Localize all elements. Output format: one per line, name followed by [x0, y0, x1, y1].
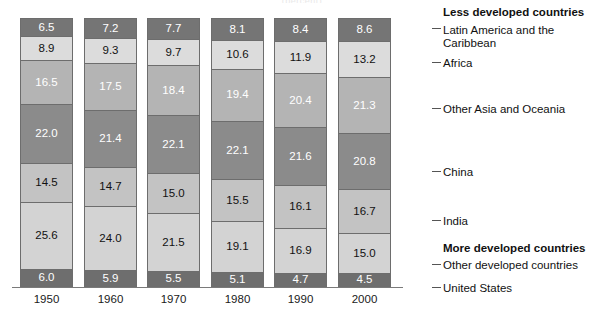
segment-value: 8.1	[230, 24, 246, 36]
segment-value: 19.4	[226, 89, 248, 101]
segment-value: 5.9	[103, 273, 119, 285]
segment-latin-america-and-the-caribbean[interactable]: 7.2	[84, 18, 137, 38]
bar-1970[interactable]: 7.79.718.422.115.021.55.5	[147, 18, 200, 287]
bar-1980[interactable]: 8.110.619.422.115.519.15.1	[211, 18, 264, 287]
connector-india	[432, 220, 441, 221]
legend-label-latin-america-line2: Caribbean	[443, 37, 496, 49]
segment-china[interactable]: 21.4	[84, 110, 137, 167]
segment-value: 19.1	[226, 241, 248, 253]
segment-other-developed-countries[interactable]: 24.0	[84, 206, 137, 270]
segment-value: 9.3	[103, 45, 119, 57]
connector-other-asia	[432, 108, 441, 109]
segment-value: 8.9	[39, 43, 55, 55]
segment-other-asia-and-oceania[interactable]: 19.4	[211, 69, 264, 121]
x-axis-line	[12, 287, 403, 288]
segment-africa[interactable]: 9.3	[84, 38, 137, 63]
segment-value: 18.4	[162, 85, 184, 97]
bar-2000[interactable]: 8.613.221.320.816.715.04.5	[338, 18, 391, 287]
segment-value: 10.6	[226, 49, 248, 61]
legend-label-africa: Africa	[443, 57, 472, 69]
segment-value: 15.0	[353, 248, 375, 260]
segment-latin-america-and-the-caribbean[interactable]: 6.5	[20, 18, 73, 36]
segment-other-asia-and-oceania[interactable]: 20.4	[274, 73, 327, 127]
segment-india[interactable]: 16.1	[274, 185, 327, 228]
segment-value: 21.6	[289, 151, 311, 163]
x-axis-label-1960: 1960	[84, 293, 137, 305]
segment-value: 15.0	[162, 188, 184, 200]
legend-label-india: India	[443, 215, 468, 227]
segment-india[interactable]: 15.5	[211, 179, 264, 221]
segment-other-developed-countries[interactable]: 25.6	[20, 202, 73, 270]
segment-africa[interactable]: 8.9	[20, 36, 73, 60]
segment-value: 20.4	[289, 95, 311, 107]
segment-india[interactable]: 14.7	[84, 167, 137, 206]
segment-united-states[interactable]: 4.5	[338, 273, 391, 287]
x-axis-label-1990: 1990	[274, 293, 327, 305]
bar-1960[interactable]: 7.29.317.521.414.724.05.9	[84, 18, 137, 287]
segment-other-asia-and-oceania[interactable]: 17.5	[84, 63, 137, 110]
segment-other-asia-and-oceania[interactable]: 18.4	[147, 65, 200, 114]
segment-china[interactable]: 22.0	[20, 104, 73, 162]
legend-label-other-asia-and-oceania: Other Asia and Oceania	[443, 103, 565, 115]
x-axis-label-1950: 1950	[20, 293, 73, 305]
legend-label-china: China	[443, 166, 473, 178]
segment-value: 7.7	[166, 23, 182, 35]
segment-value: 21.4	[99, 133, 121, 145]
segment-value: 21.3	[353, 100, 375, 112]
x-axis-label-1970: 1970	[147, 293, 200, 305]
segment-value: 15.5	[226, 195, 248, 207]
connector-china	[432, 171, 441, 172]
segment-value: 5.5	[166, 273, 182, 285]
segment-africa[interactable]: 10.6	[211, 40, 264, 69]
segment-latin-america-and-the-caribbean[interactable]: 8.1	[211, 18, 264, 40]
segment-china[interactable]: 22.1	[211, 121, 264, 180]
segment-other-developed-countries[interactable]: 16.9	[274, 228, 327, 273]
connector-africa	[432, 62, 441, 63]
segment-other-asia-and-oceania[interactable]: 16.5	[20, 60, 73, 104]
segment-china[interactable]: 20.8	[338, 133, 391, 188]
segment-other-developed-countries[interactable]: 15.0	[338, 233, 391, 273]
legend-group-header-less-developed: Less developed countries	[443, 6, 584, 18]
connector-other-developed	[432, 264, 441, 265]
connector-latin-america	[432, 28, 441, 29]
segment-value: 16.5	[35, 77, 57, 89]
segment-latin-america-and-the-caribbean[interactable]: 8.4	[274, 18, 327, 41]
segment-india[interactable]: 16.7	[338, 189, 391, 234]
segment-value: 7.2	[103, 23, 119, 35]
segment-india[interactable]: 15.0	[147, 173, 200, 213]
segment-value: 17.5	[99, 81, 121, 93]
segment-value: 20.8	[353, 156, 375, 168]
segment-china[interactable]: 21.6	[274, 127, 327, 184]
segment-value: 22.1	[162, 139, 184, 151]
bar-1950[interactable]: 6.58.916.522.014.525.66.0	[20, 18, 73, 287]
legend-label-latin-america-line1: Latin America and the	[443, 24, 554, 36]
segment-value: 21.5	[162, 237, 184, 249]
segment-value: 8.6	[357, 24, 373, 36]
segment-united-states[interactable]: 5.9	[84, 270, 137, 287]
segment-other-developed-countries[interactable]: 21.5	[147, 213, 200, 270]
segment-united-states[interactable]: 4.7	[274, 273, 327, 287]
segment-united-states[interactable]: 5.5	[147, 271, 200, 287]
segment-other-developed-countries[interactable]: 19.1	[211, 221, 264, 272]
x-axis-label-1980: 1980	[211, 293, 264, 305]
segment-value: 9.7	[166, 47, 182, 59]
segment-value: 4.7	[293, 274, 309, 286]
segment-value: 22.1	[226, 145, 248, 157]
segment-value: 16.9	[289, 245, 311, 257]
segment-latin-america-and-the-caribbean[interactable]: 7.7	[147, 18, 200, 39]
segment-latin-america-and-the-caribbean[interactable]: 8.6	[338, 18, 391, 41]
segment-united-states[interactable]: 5.1	[211, 272, 264, 287]
segment-africa[interactable]: 13.2	[338, 41, 391, 76]
segment-africa[interactable]: 9.7	[147, 39, 200, 65]
segment-africa[interactable]: 11.9	[274, 41, 327, 73]
segment-united-states[interactable]: 6.0	[20, 269, 73, 287]
segment-india[interactable]: 14.5	[20, 163, 73, 202]
segment-value: 16.1	[289, 201, 311, 213]
segment-value: 6.5	[39, 22, 55, 34]
segment-other-asia-and-oceania[interactable]: 21.3	[338, 77, 391, 134]
segment-china[interactable]: 22.1	[147, 115, 200, 174]
segment-value: 4.5	[357, 274, 373, 286]
segment-value: 22.0	[35, 128, 57, 140]
bar-1990[interactable]: 8.411.920.421.616.116.94.7	[274, 18, 327, 287]
segment-value: 5.1	[230, 274, 246, 286]
